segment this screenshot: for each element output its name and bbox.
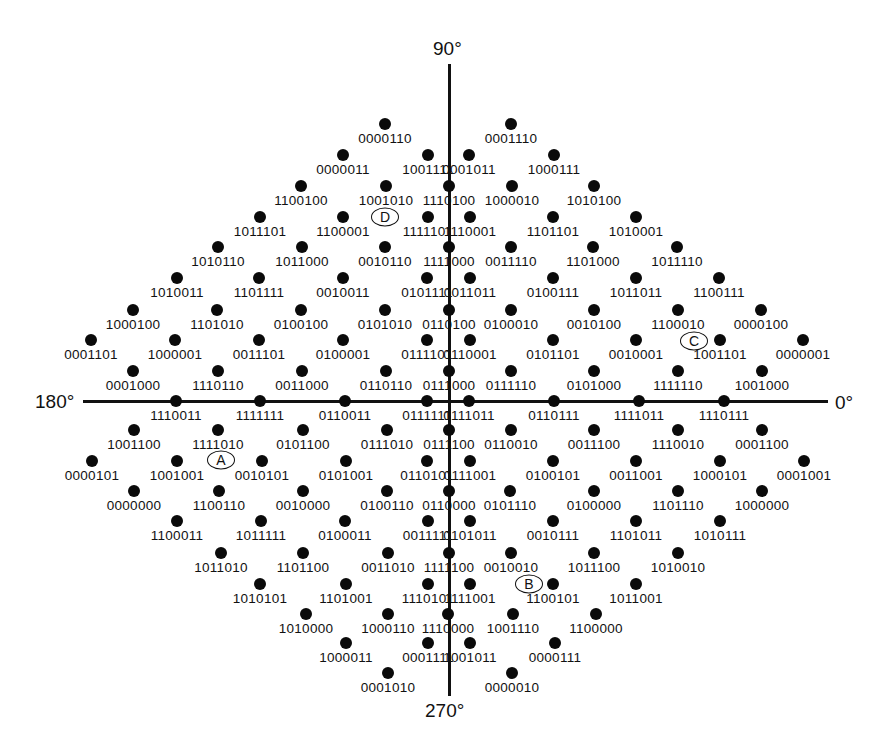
constellation-point (382, 667, 394, 679)
point-code-label: 1100100 (274, 193, 328, 208)
point-code-label: 0111000 (423, 378, 476, 393)
constellation-point (547, 515, 559, 527)
constellation-point (421, 334, 433, 346)
constellation-point (756, 485, 768, 497)
point-code-label: 0101001 (319, 468, 374, 483)
constellation-point (672, 365, 684, 377)
point-code-label: 0011010 (361, 560, 415, 575)
point-code-label: 1000110 (361, 621, 415, 636)
constellation-point (588, 365, 600, 377)
constellation-point (380, 180, 392, 192)
constellation-point (422, 211, 434, 223)
constellation-point (337, 211, 349, 223)
constellation-point (422, 515, 434, 527)
point-code-label: 1110011 (150, 408, 202, 423)
constellation-point (548, 149, 560, 161)
constellation-point (587, 241, 599, 253)
point-code-label: 1001011 (443, 650, 497, 665)
constellation-point (297, 485, 309, 497)
constellation-point (630, 211, 642, 223)
point-code-label: 0101000 (567, 378, 622, 393)
constellation-point (548, 395, 560, 407)
constellation-point (464, 211, 476, 223)
constellation-point (381, 485, 393, 497)
constellation-point (442, 608, 454, 620)
constellation-point (255, 515, 267, 527)
constellation-point (504, 485, 516, 497)
point-code-label: 0111100 (423, 437, 475, 452)
constellation-point (547, 455, 559, 467)
point-code-label: 1101101 (527, 224, 580, 239)
point-code-label: 1000101 (693, 468, 748, 483)
point-code-label: 1011111 (236, 528, 287, 543)
constellation-point (464, 637, 476, 649)
constellation-point (672, 424, 684, 436)
point-code-label: 0001000 (106, 378, 161, 393)
constellation-point (295, 304, 307, 316)
point-code-label: 0111001 (444, 468, 497, 483)
constellation-point (505, 424, 517, 436)
constellation-point (339, 395, 351, 407)
constellation-point (422, 149, 434, 161)
axis-label-270: 270° (425, 700, 464, 722)
constellation-point (337, 272, 349, 284)
point-code-label: 0110111 (528, 408, 580, 423)
axis-label-180: 180° (35, 391, 74, 413)
point-code-label: 1101010 (190, 317, 244, 332)
point-code-label: 1010110 (191, 254, 245, 269)
point-code-label: 0000001 (776, 347, 831, 362)
point-code-label: 1111011 (614, 408, 665, 423)
marker-d: D (371, 208, 399, 227)
constellation-point (464, 455, 476, 467)
constellation-point (443, 180, 455, 192)
marker-b: B (515, 575, 543, 594)
marker-c: C (680, 332, 708, 351)
point-code-label: 0010101 (235, 468, 290, 483)
constellation-point (547, 211, 559, 223)
constellation-point (422, 637, 434, 649)
point-code-label: 1100001 (316, 224, 370, 239)
constellation-point (254, 211, 266, 223)
constellation-point (340, 578, 352, 590)
point-code-label: 1011001 (609, 591, 663, 606)
point-code-label: 1011010 (194, 560, 248, 575)
point-code-label: 1010101 (233, 591, 288, 606)
point-code-label: 1110100 (423, 193, 476, 208)
constellation-point (300, 608, 312, 620)
constellation-point (421, 395, 433, 407)
constellation-point (380, 365, 392, 377)
constellation-point (714, 455, 726, 467)
point-code-label: 1101011 (610, 528, 663, 543)
constellation-point (215, 547, 227, 559)
point-code-label: 0001010 (361, 680, 416, 695)
constellation-diagram: 90° 270° 180° 0° 00001100001110000001110… (0, 0, 888, 749)
point-code-label: 0100011 (318, 528, 372, 543)
point-code-label: 1000010 (485, 193, 540, 208)
constellation-point (464, 334, 476, 346)
point-code-label: 0000010 (485, 680, 540, 695)
constellation-point (86, 455, 98, 467)
constellation-point (379, 304, 391, 316)
point-code-label: 0000000 (107, 498, 162, 513)
constellation-point (506, 180, 518, 192)
constellation-point (464, 578, 476, 590)
point-code-label: 1110000 (422, 621, 475, 636)
point-code-label: 0100111 (527, 285, 580, 300)
point-code-label: 0010110 (358, 254, 412, 269)
axis-label-0: 0° (835, 392, 853, 414)
constellation-point (443, 241, 455, 253)
point-code-label: 1011110 (651, 254, 703, 269)
point-code-label: 0011100 (568, 437, 621, 452)
constellation-point (212, 365, 224, 377)
point-code-label: 1001110 (487, 621, 540, 636)
point-code-label: 0100110 (360, 498, 414, 513)
point-code-label: 0000111 (529, 650, 582, 665)
constellation-point (506, 667, 518, 679)
constellation-point (382, 547, 394, 559)
constellation-point (464, 272, 476, 284)
constellation-point (714, 515, 726, 527)
constellation-point (296, 241, 308, 253)
point-code-label: 0001011 (442, 162, 496, 177)
constellation-point (443, 424, 455, 436)
point-code-label: 0111010 (361, 437, 414, 452)
